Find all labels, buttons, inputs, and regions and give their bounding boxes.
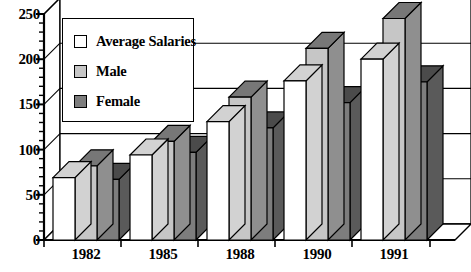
bar-1990-average-salaries (284, 65, 322, 240)
x-tick-label-1982: 1982 (72, 246, 101, 263)
chart-legend: Average Salaries Male Female (62, 18, 194, 122)
legend-item-average-salaries: Average Salaries (74, 26, 193, 56)
legend-label-male: Male (96, 63, 127, 80)
x-tick-label-1990: 1990 (303, 246, 332, 263)
x-tick-label-1991: 1991 (380, 246, 409, 263)
x-tick-label-1985: 1985 (149, 246, 178, 263)
legend-label-female: Female (96, 93, 140, 110)
bar-1988-average-salaries (207, 106, 245, 240)
bar-1982-average-salaries (53, 162, 91, 240)
legend-swatch-average-salaries (74, 35, 87, 48)
bar-chart: 050100150200250 19821985198819901991 Ave… (0, 0, 471, 272)
legend-item-female: Female (74, 86, 193, 116)
legend-swatch-male (74, 65, 87, 78)
bar-1991-average-salaries (361, 43, 399, 240)
legend-swatch-female (74, 95, 87, 108)
bar-1985-average-salaries (130, 139, 168, 240)
legend-item-male: Male (74, 56, 193, 86)
legend-label-average-salaries: Average Salaries (96, 33, 196, 50)
x-tick-label-1988: 1988 (226, 246, 255, 263)
